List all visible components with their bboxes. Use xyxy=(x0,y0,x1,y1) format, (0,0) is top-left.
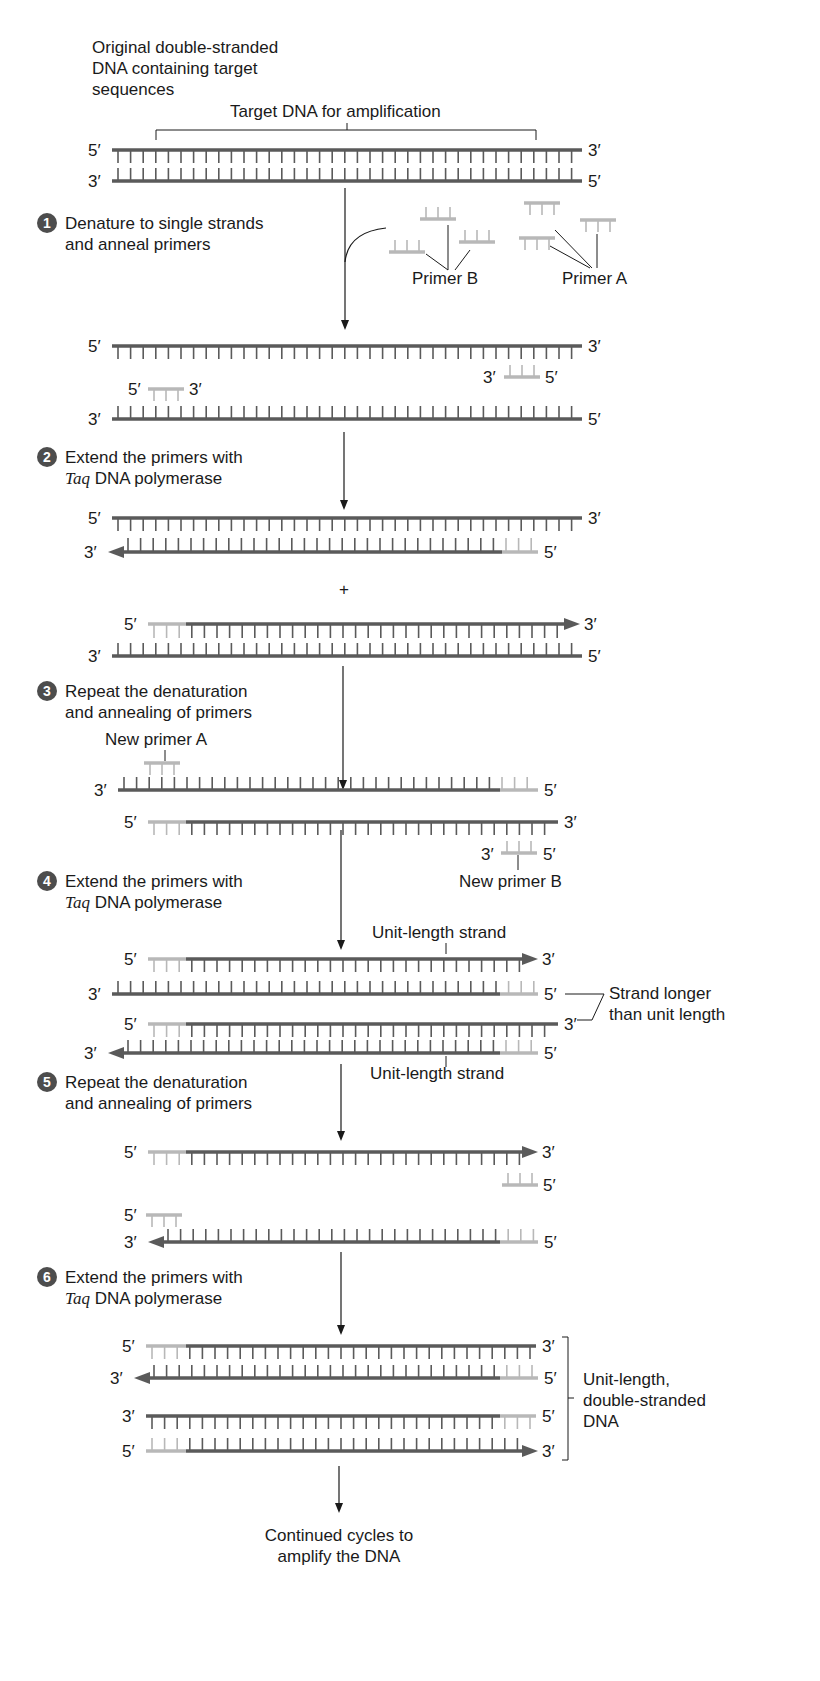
extension-arrow-icon xyxy=(108,1047,124,1059)
unit-length-bracket xyxy=(562,1337,574,1460)
strand-end-label: 3′ xyxy=(588,337,601,356)
new-primer-b-label: New primer B xyxy=(459,872,562,891)
strand-end-label: 3′ xyxy=(84,543,97,562)
new-primer-b xyxy=(501,841,537,853)
extended-strand-b: 3′5′ xyxy=(84,538,557,562)
strand-end-label: 5′ xyxy=(544,543,557,562)
primer-a xyxy=(524,203,560,215)
strand-end-label: 3′ xyxy=(110,1369,123,1388)
step-number: 3 xyxy=(43,683,51,699)
extension-arrow-icon xyxy=(522,953,538,965)
strand-end-label: 5′ xyxy=(124,813,137,832)
end-label: 5′ xyxy=(124,1206,137,1225)
end-label: 5′ xyxy=(545,368,558,387)
unit-strand-a: 5′3′ xyxy=(124,950,555,972)
strand-longer-label-1: Strand longer xyxy=(609,984,711,1003)
leader-line xyxy=(550,246,590,268)
unit-length-ds-label-3: DNA xyxy=(583,1412,620,1431)
step-number: 6 xyxy=(43,1269,51,1285)
strand-end-label: 5′ xyxy=(88,509,101,528)
title-line-3: sequences xyxy=(92,80,174,99)
plus-sign: + xyxy=(339,580,349,599)
unit-length-strand-label-top: Unit-length strand xyxy=(372,923,506,942)
strand-b-product: 3′5′ xyxy=(94,777,557,800)
arrow-down-icon xyxy=(341,320,349,330)
end-label: 3′ xyxy=(189,380,202,399)
strand-end-label: 5′ xyxy=(122,1442,135,1461)
original-bottom-strand: 3′5′ xyxy=(88,168,601,191)
strand-end-label: 3′ xyxy=(542,950,555,969)
title-line-1: Original double-stranded xyxy=(92,38,278,57)
arrow-down-icon xyxy=(337,1325,345,1335)
step-text-line-2: and anneal primers xyxy=(65,235,211,254)
step-6: 6Extend the primers withTaq DNA polymera… xyxy=(37,1267,243,1308)
strand-end-label: 5′ xyxy=(544,1369,557,1388)
step-number: 5 xyxy=(43,1074,51,1090)
strand-end-label: 3′ xyxy=(564,1015,577,1034)
long-strand-a: 5′3′ xyxy=(124,1015,577,1037)
annealed-primer-a xyxy=(146,1215,182,1227)
end-label: 5′ xyxy=(543,1176,556,1195)
leader-line xyxy=(455,250,470,270)
step-1: 1Denature to single strandsand anneal pr… xyxy=(37,213,263,254)
step-text-line-1: Repeat the denaturation xyxy=(65,682,247,701)
leader-line xyxy=(555,230,592,268)
continued-label-1: Continued cycles to xyxy=(265,1526,413,1545)
end-label: 3′ xyxy=(481,845,494,864)
strand-end-label: 5′ xyxy=(88,337,101,356)
strand-end-label: 5′ xyxy=(88,141,101,160)
original-top-strand: 5′3′ xyxy=(88,141,601,163)
step-text-line-2: and annealing of primers xyxy=(65,1094,252,1113)
strand-end-label: 5′ xyxy=(542,1407,555,1426)
final-strand-3: 3′5′ xyxy=(122,1407,555,1429)
step-3: 3Repeat the denaturationand annealing of… xyxy=(37,681,252,722)
strand-end-label: 5′ xyxy=(124,950,137,969)
strand-end-label: 5′ xyxy=(544,985,557,1004)
end-label: 5′ xyxy=(543,845,556,864)
strand-end-label: 3′ xyxy=(88,985,101,1004)
title-line-2: DNA containing target xyxy=(92,59,258,78)
end-label: 5′ xyxy=(128,380,141,399)
extension-arrow-icon xyxy=(108,546,124,558)
final-strand-4: 5′3′ xyxy=(122,1438,555,1461)
unit-strand-b: 3′5′ xyxy=(84,1040,557,1063)
unit-strand-a-single: 5′3′ xyxy=(124,1143,555,1165)
strand-end-label: 5′ xyxy=(588,172,601,191)
extension-arrow-icon xyxy=(134,1372,150,1384)
extension-arrow-icon xyxy=(148,1236,164,1248)
strand-end-label: 3′ xyxy=(564,813,577,832)
strand-end-label: 5′ xyxy=(124,1015,137,1034)
template-bottom: 3′5′ xyxy=(88,643,601,666)
new-primer-a xyxy=(144,763,180,775)
strand-end-label: 3′ xyxy=(542,1337,555,1356)
step-text-line-2: Taq DNA polymerase xyxy=(65,1289,222,1308)
strand-end-label: 3′ xyxy=(542,1442,555,1461)
extension-arrow-icon xyxy=(522,1445,538,1457)
strand-end-label: 3′ xyxy=(124,1233,137,1252)
strand-end-label: 3′ xyxy=(88,172,101,191)
primer-b xyxy=(420,207,456,219)
arrow-down-icon xyxy=(337,1131,345,1141)
step-5: 5Repeat the denaturationand annealing of… xyxy=(37,1072,252,1113)
strand-end-label: 3′ xyxy=(542,1143,555,1162)
unit-length-ds-label-1: Unit-length, xyxy=(583,1370,670,1389)
primer-b xyxy=(389,240,425,252)
new-primer-a-label: New primer A xyxy=(105,730,208,749)
arrow-down-icon xyxy=(337,940,345,950)
pcr-diagram: Original double-stranded DNA containing … xyxy=(0,0,820,1681)
target-bracket xyxy=(156,123,536,140)
arrow-down-icon xyxy=(340,500,348,510)
strand-end-label: 3′ xyxy=(94,781,107,800)
strand-a-product: 5′3′ xyxy=(124,813,577,835)
strand-end-label: 3′ xyxy=(88,410,101,429)
denatured-top-strand: 5′3′ xyxy=(88,337,601,359)
strand-end-label: 5′ xyxy=(544,1044,557,1063)
strand-end-label: 3′ xyxy=(588,509,601,528)
step-text-line-2: Taq DNA polymerase xyxy=(65,893,222,912)
strand-end-label: 5′ xyxy=(122,1337,135,1356)
unit-strand-b-single: 3′5′ xyxy=(124,1229,557,1252)
strand-end-label: 5′ xyxy=(588,410,601,429)
primer-a xyxy=(580,220,616,232)
unit-length-ds-label-2: double-stranded xyxy=(583,1391,706,1410)
strand-end-label: 5′ xyxy=(544,781,557,800)
